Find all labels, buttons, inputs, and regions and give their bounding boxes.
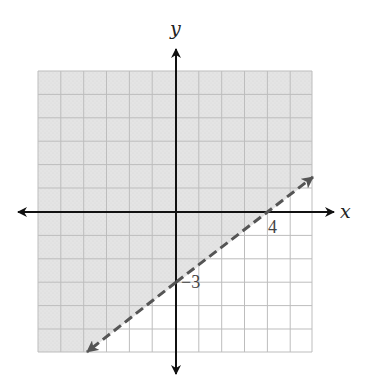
y-intercept-label: −3 [181, 272, 200, 292]
x-axis-label: x [340, 200, 351, 222]
x-intercept-label: 4 [268, 217, 277, 237]
y-axis-label: y [169, 17, 181, 39]
inequality-graph: x y 4 −3 [0, 0, 372, 381]
